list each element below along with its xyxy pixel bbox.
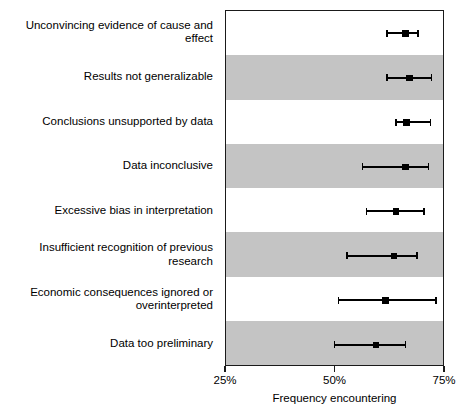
y-axis-label: Insufficient recognition of previous res…	[0, 233, 219, 278]
data-point-row	[226, 145, 443, 190]
data-point-marker	[373, 342, 380, 349]
confidence-interval-cap	[417, 30, 419, 37]
data-point-row	[226, 56, 443, 101]
chart-figure: Unconvincing evidence of cause and effec…	[0, 0, 461, 417]
data-point-row	[226, 11, 443, 56]
x-axis-tick-label: 75%	[432, 374, 455, 386]
confidence-interval-cap	[405, 341, 407, 348]
y-axis-category-labels: Unconvincing evidence of cause and effec…	[0, 10, 219, 366]
confidence-interval-cap	[428, 163, 430, 170]
x-axis-tick-label: 50%	[323, 374, 346, 386]
data-point-row	[226, 323, 443, 367]
confidence-interval-cap	[346, 252, 348, 259]
confidence-interval-cap	[334, 341, 336, 348]
data-point-marker	[393, 208, 400, 215]
y-axis-label-text: Data too preliminary	[110, 337, 213, 351]
y-axis-label-text: Data inconclusive	[123, 159, 213, 173]
data-point-row	[226, 100, 443, 145]
confidence-interval-cap	[366, 208, 368, 215]
y-axis-label-text: Excessive bias in interpretation	[54, 204, 213, 218]
data-point-marker	[391, 253, 398, 260]
y-axis-label-text: Insufficient recognition of previous res…	[0, 241, 213, 268]
x-axis-tick-mark	[443, 366, 444, 372]
confidence-interval-cap	[431, 74, 433, 81]
data-point-marker	[402, 164, 409, 171]
plot-panel	[225, 10, 444, 366]
confidence-interval-cap	[362, 163, 364, 170]
confidence-interval-cap	[386, 74, 388, 81]
x-axis-tick-label: 25%	[213, 374, 236, 386]
confidence-interval-line	[347, 255, 417, 257]
x-axis-tick-mark	[334, 366, 335, 372]
y-axis-label-text: Economic consequences ignored or overint…	[30, 286, 213, 313]
confidence-interval-cap	[416, 252, 418, 259]
data-point-marker	[406, 75, 413, 82]
confidence-interval-cap	[395, 119, 397, 126]
confidence-interval-line	[363, 166, 429, 168]
confidence-interval-cap	[435, 297, 437, 304]
data-point-row	[226, 278, 443, 323]
y-axis-label-text: Conclusions unsupported by data	[42, 115, 213, 129]
confidence-interval-line	[335, 344, 406, 346]
confidence-interval-cap	[338, 297, 340, 304]
confidence-interval-cap	[430, 119, 432, 126]
y-axis-label-text: Results not generalizable	[84, 70, 213, 84]
y-axis-label: Conclusions unsupported by data	[0, 99, 219, 144]
data-point-marker	[382, 297, 389, 304]
y-axis-label: Data too preliminary	[0, 322, 219, 367]
confidence-interval-cap	[423, 208, 425, 215]
y-axis-label: Excessive bias in interpretation	[0, 188, 219, 233]
y-axis-label: Results not generalizable	[0, 55, 219, 100]
confidence-interval-cap	[386, 30, 388, 37]
x-axis-title: Frequency encountering	[225, 392, 444, 404]
confidence-interval-line	[396, 121, 431, 123]
data-point-marker	[402, 30, 409, 37]
data-point-row	[226, 189, 443, 234]
data-point-row	[226, 234, 443, 279]
x-axis-tick-mark	[224, 366, 225, 372]
y-axis-label-text: Unconvincing evidence of cause and effec…	[0, 19, 213, 46]
data-points-layer	[226, 11, 443, 365]
y-axis-label: Economic consequences ignored or overint…	[0, 277, 219, 322]
data-point-marker	[403, 119, 410, 126]
y-axis-label: Data inconclusive	[0, 144, 219, 189]
y-axis-label: Unconvincing evidence of cause and effec…	[0, 10, 219, 55]
